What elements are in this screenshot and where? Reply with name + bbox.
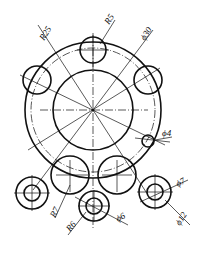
dim-r7: R7 [47, 205, 61, 220]
center-point [92, 109, 95, 112]
dim-d6: ϕ6 [114, 210, 127, 223]
technical-drawing: R25 R5 ϕ30 ϕ4 ϕ7 ϕ12 R7 R6 ϕ6 [0, 0, 204, 254]
main-flange [20, 25, 165, 230]
dim-d4: ϕ4 [162, 128, 172, 138]
dim-d12: ϕ12 [173, 210, 189, 227]
bottom-right-circle [98, 156, 136, 194]
dim-r6: R6 [63, 219, 78, 234]
dim-r5: R5 [102, 12, 117, 27]
dim-d7: ϕ7 [174, 175, 187, 188]
left-concentric [14, 175, 50, 211]
dim-d30: ϕ30 [138, 25, 154, 42]
